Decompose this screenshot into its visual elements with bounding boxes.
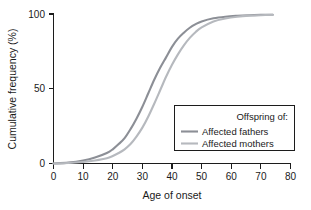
legend-label-affected-fathers: Affected fathers [202, 126, 269, 137]
x-tick-label-30: 30 [137, 171, 149, 182]
y-tick-label-100: 100 [28, 9, 45, 20]
x-tick-label-10: 10 [78, 171, 90, 182]
x-tick-label-80: 80 [285, 171, 297, 182]
x-tick-label-0: 0 [51, 171, 57, 182]
x-axis-ticks: 0 10 20 30 40 50 60 70 80 [51, 164, 297, 183]
x-tick-label-20: 20 [107, 171, 119, 182]
y-tick-label-50: 50 [34, 83, 46, 94]
x-tick-label-50: 50 [196, 171, 208, 182]
legend-label-affected-mothers: Affected mothers [202, 138, 274, 149]
x-axis-title: Age of onset [143, 189, 202, 201]
legend-title: Offspring of: [236, 111, 288, 122]
x-tick-label-70: 70 [255, 171, 267, 182]
x-tick-label-60: 60 [226, 171, 238, 182]
y-axis-ticks: 100 50 0 [28, 9, 53, 170]
chart-figure: 100 50 0 0 10 20 30 40 50 60 70 80 Age [0, 0, 311, 210]
cumulative-frequency-chart: 100 50 0 0 10 20 30 40 50 60 70 80 Age [0, 0, 311, 210]
chart-legend: Offspring of: Affected fathers Affected … [175, 106, 295, 151]
y-axis-title: Cumulative frequency (%) [6, 29, 18, 150]
x-tick-label-40: 40 [166, 171, 178, 182]
y-tick-label-0: 0 [39, 158, 45, 169]
